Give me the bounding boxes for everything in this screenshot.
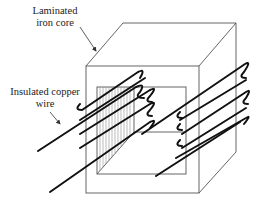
wire-label-arrow: [50, 112, 60, 124]
core-top-face: [86, 23, 236, 66]
right-winding: [142, 63, 249, 176]
iron-core: [86, 23, 236, 193]
core-right-face: [199, 23, 236, 193]
transformer-diagram: [0, 0, 261, 208]
core-label-arrow: [80, 27, 96, 51]
